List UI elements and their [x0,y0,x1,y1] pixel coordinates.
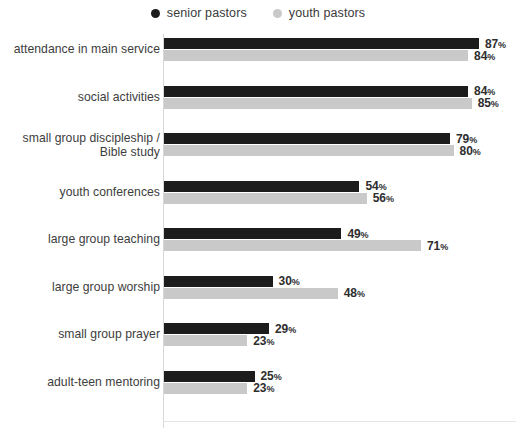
bar-senior[interactable] [164,371,255,382]
horizontal-bar-chart: senior pastors youth pastors attendance … [0,0,516,437]
bar-track-senior: 49% [164,228,516,239]
bar-youth[interactable] [164,145,454,156]
bar-value-label-youth: 23% [253,334,274,348]
plot-area: attendance in main service87%84%social a… [0,32,516,430]
bar-track-youth: 48% [164,288,516,299]
x-axis-baseline [163,421,516,422]
bar-senior[interactable] [164,276,273,287]
bar-value-label-youth: 84% [474,49,495,63]
bar-senior[interactable] [164,86,468,97]
category-label: large group worship [0,281,160,295]
bar-track-senior: 29% [164,323,516,334]
bar-row: small group discipleship / Bible study79… [0,133,516,157]
bar-track-youth: 80% [164,145,516,156]
bar-group: 54%56% [164,181,516,205]
bar-track-senior: 87% [164,38,516,49]
bar-value-label-youth: 85% [478,96,499,110]
bar-group: 84%85% [164,86,516,110]
bar-value-label-senior: 29% [275,322,296,336]
bar-row: large group teaching49%71% [0,228,516,252]
bar-group: 30%48% [164,276,516,300]
bar-value-label-youth: 56% [373,191,394,205]
category-label: small group prayer [0,328,160,342]
bar-youth[interactable] [164,50,468,61]
category-label: social activities [0,91,160,105]
bar-track-youth: 84% [164,50,516,61]
bar-track-senior: 79% [164,133,516,144]
legend-label-senior-pastors: senior pastors [167,6,247,20]
dot-icon [273,9,282,18]
bar-youth[interactable] [164,288,338,299]
legend-item-youth-pastors[interactable]: youth pastors [273,6,365,20]
bar-youth[interactable] [164,335,247,346]
category-label: adult-teen mentoring [0,376,160,390]
bar-value-label-youth: 48% [344,286,365,300]
bar-value-label-senior: 30% [279,274,300,288]
bar-row: youth conferences54%56% [0,181,516,205]
bar-row: large group worship30%48% [0,276,516,300]
bar-track-senior: 54% [164,181,516,192]
dot-icon [151,9,160,18]
bar-group: 25%23% [164,371,516,395]
bar-value-label-youth: 80% [460,144,481,158]
bar-track-youth: 85% [164,98,516,109]
legend-label-youth-pastors: youth pastors [289,6,365,20]
bar-track-youth: 23% [164,383,516,394]
bar-row: social activities84%85% [0,86,516,110]
bar-group: 29%23% [164,323,516,347]
bar-value-label-senior: 49% [347,227,368,241]
bar-track-youth: 56% [164,193,516,204]
chart-legend: senior pastors youth pastors [0,6,516,20]
bar-youth[interactable] [164,383,247,394]
bar-group: 79%80% [164,133,516,157]
bar-track-youth: 23% [164,335,516,346]
category-label: attendance in main service [0,43,160,57]
bar-row: small group prayer29%23% [0,323,516,347]
category-label: large group teaching [0,233,160,247]
bar-track-senior: 25% [164,371,516,382]
bar-senior[interactable] [164,228,341,239]
bar-senior[interactable] [164,323,269,334]
bar-track-senior: 30% [164,276,516,287]
bar-value-label-youth: 23% [253,381,274,395]
bar-senior[interactable] [164,181,359,192]
bar-group: 49%71% [164,228,516,252]
bar-senior[interactable] [164,38,479,49]
category-label: small group discipleship / Bible study [0,132,160,159]
bar-youth[interactable] [164,240,421,251]
legend-item-senior-pastors[interactable]: senior pastors [151,6,247,20]
bar-track-senior: 84% [164,86,516,97]
bar-senior[interactable] [164,133,450,144]
category-label: youth conferences [0,186,160,200]
bar-youth[interactable] [164,98,472,109]
bar-value-label-youth: 71% [427,239,448,253]
bar-youth[interactable] [164,193,367,204]
bar-row: adult-teen mentoring25%23% [0,371,516,395]
bar-group: 87%84% [164,38,516,62]
bar-row: attendance in main service87%84% [0,38,516,62]
bar-track-youth: 71% [164,240,516,251]
